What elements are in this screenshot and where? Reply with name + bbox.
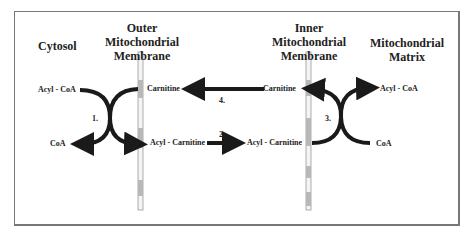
label-step2: 2.	[219, 130, 225, 139]
label-step4: 4.	[219, 96, 225, 105]
label-mitochondrial-matrix: Mitochondrial Matrix	[370, 36, 444, 64]
label-acyl-carnitine-outer: Acyl - Carnitine	[150, 138, 205, 147]
label-acyl-carnitine-inner: Acyl - Carnitine	[247, 138, 302, 147]
label-step1: 1.	[92, 114, 98, 123]
arrow-step1-carnitine-to-acylcarnitine	[110, 89, 138, 144]
label-acyl-coa-cytosol: Acyl - CoA	[38, 85, 76, 94]
arrow-step3-coa-to-acylcoa	[341, 88, 370, 143]
inner-membrane-bar	[306, 52, 311, 210]
label-coa-matrix: CoA	[376, 139, 392, 148]
label-inner-membrane: Inner Mitochondrial Membrane	[272, 21, 346, 63]
label-outer-membrane: Outer Mitochondrial Membrane	[105, 21, 179, 63]
label-acyl-coa-matrix: Acyl - CoA	[380, 84, 418, 93]
label-coa-cytosol: CoA	[50, 139, 66, 148]
label-carnitine-outer: Carnitine	[147, 84, 180, 93]
outer-membrane-bar	[138, 52, 143, 210]
label-carnitine-inner: Carnitine	[263, 84, 296, 93]
label-step3: 3.	[325, 114, 331, 123]
label-cytosol: Cytosol	[38, 39, 77, 53]
